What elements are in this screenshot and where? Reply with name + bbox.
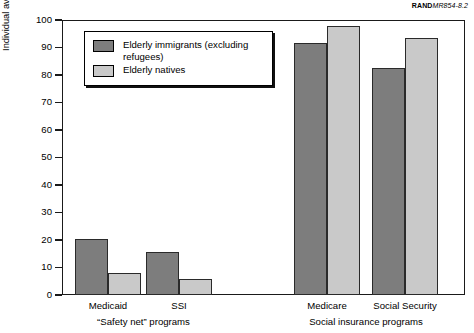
source-identifier-bold: RAND xyxy=(412,2,433,9)
y-axis-tick-mark xyxy=(55,239,62,240)
bar-medicare-immigrants xyxy=(294,43,327,295)
y-axis-tick-label: 0 xyxy=(47,289,52,300)
y-axis-tick-mark xyxy=(55,129,62,130)
legend-swatch xyxy=(93,40,114,52)
legend-item: Elderly natives xyxy=(93,64,185,77)
y-axis-tick-label: 100 xyxy=(36,14,52,25)
y-axis-tick-mark xyxy=(55,102,62,103)
y-axis-tick-mark xyxy=(55,157,62,158)
y-axis-tick-mark xyxy=(55,74,62,75)
y-axis-tick-label: 10 xyxy=(41,261,52,272)
bar-medicare-natives xyxy=(327,26,360,296)
x-axis-category-label: SSI xyxy=(171,300,186,311)
bar-ssi-immigrants xyxy=(146,252,179,295)
y-axis-tick-label: 40 xyxy=(41,179,52,190)
y-axis-tick-mark xyxy=(55,19,62,20)
legend-swatch xyxy=(93,65,114,77)
y-axis-tick-label: 70 xyxy=(41,96,52,107)
x-axis-group-label: Social insurance programs xyxy=(309,316,423,327)
y-axis-tick-label: 50 xyxy=(41,151,52,162)
bar-medicaid-immigrants xyxy=(75,239,108,295)
bar-social-security-natives xyxy=(405,38,438,295)
x-axis-group-label: “Safety net” programs xyxy=(97,316,190,327)
bar-social-security-immigrants xyxy=(372,68,405,295)
y-axis-tick-label: 30 xyxy=(41,206,52,217)
source-identifier: RANDMR854-8.2 xyxy=(412,2,468,9)
y-axis-tick-mark xyxy=(55,184,62,185)
bar-ssi-natives xyxy=(179,279,212,295)
legend-item: Elderly immigrants (excluding refugees) xyxy=(93,39,248,62)
legend-label: Elderly immigrants (excluding refugees) xyxy=(123,39,248,62)
y-axis-tick-label: 80 xyxy=(41,69,52,80)
y-axis-tick-label: 20 xyxy=(41,234,52,245)
x-axis-category-label: Medicaid xyxy=(89,300,127,311)
bar-medicaid-natives xyxy=(108,273,141,295)
y-axis-tick-label: 60 xyxy=(41,124,52,135)
x-axis-category-label: Medicare xyxy=(307,300,346,311)
y-axis-tick-mark xyxy=(55,267,62,268)
y-axis-tick-mark xyxy=(55,294,62,295)
y-axis-title: Individual average monthly probability o… xyxy=(0,0,36,54)
source-identifier-italic: MR854-8.2 xyxy=(432,2,468,9)
y-axis-tick-label: 90 xyxy=(41,41,52,52)
y-axis-tick-mark xyxy=(55,212,62,213)
legend-label: Elderly natives xyxy=(123,64,185,76)
y-axis-tick-mark xyxy=(55,47,62,48)
x-axis-category-label: Social Security xyxy=(373,300,436,311)
chart-legend: Elderly immigrants (excluding refugees)E… xyxy=(84,31,273,86)
